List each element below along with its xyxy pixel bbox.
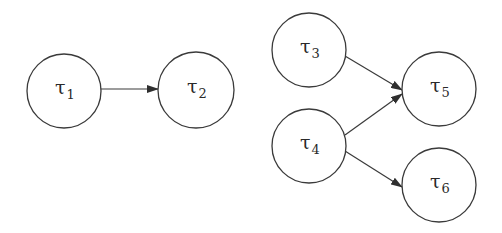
node-t4: τ4: [272, 109, 346, 183]
node-t2: τ2: [158, 52, 234, 128]
node-symbol: τ: [300, 35, 311, 57]
node-subscript: 3: [312, 46, 320, 61]
node-t5: τ5: [402, 52, 476, 126]
node-symbol: τ: [430, 170, 441, 192]
edges-layer: [101, 56, 402, 187]
node-symbol: τ: [55, 76, 66, 98]
node-subscript: 5: [442, 85, 450, 100]
node-t1: τ1: [27, 54, 101, 128]
node-subscript: 1: [67, 87, 75, 102]
node-symbol: τ: [430, 74, 441, 96]
node-symbol: τ: [187, 75, 198, 97]
nodes-layer: τ1τ2τ3τ4τ5τ6: [27, 13, 476, 222]
edge-t4-to-t5: [345, 94, 402, 135]
node-t6: τ6: [402, 148, 476, 222]
node-subscript: 6: [442, 181, 450, 196]
edge-t4-to-t6: [345, 151, 402, 187]
edge-t3-to-t5: [345, 56, 402, 90]
node-t3: τ3: [272, 13, 346, 87]
node-subscript: 4: [312, 142, 320, 157]
task-graph-diagram: τ1τ2τ3τ4τ5τ6: [0, 0, 502, 233]
node-subscript: 2: [199, 86, 207, 101]
node-symbol: τ: [300, 131, 311, 153]
